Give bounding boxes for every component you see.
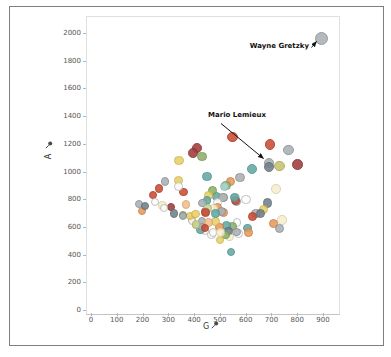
y-tick-mark xyxy=(83,33,86,34)
x-tick-label: 400 xyxy=(187,316,200,324)
y-tick-label: 400 xyxy=(51,251,81,259)
data-point[interactable] xyxy=(160,204,168,212)
x-axis-label-text: G xyxy=(203,322,209,331)
y-tick-label: 1000 xyxy=(51,168,81,176)
y-tick-label: 1400 xyxy=(51,112,81,120)
data-point[interactable] xyxy=(227,132,237,142)
data-point[interactable] xyxy=(274,161,284,171)
data-point[interactable] xyxy=(292,159,302,169)
x-tick-label: 500 xyxy=(213,316,226,324)
data-point[interactable] xyxy=(216,228,224,236)
y-tick-label: 1800 xyxy=(51,57,81,65)
y-tick-mark xyxy=(83,199,86,200)
data-point[interactable] xyxy=(271,184,281,194)
data-point[interactable] xyxy=(235,173,245,183)
data-point[interactable] xyxy=(283,145,294,156)
data-point[interactable] xyxy=(315,32,328,45)
x-tick-label: 600 xyxy=(239,316,252,324)
data-point[interactable] xyxy=(264,162,274,172)
y-tick-label: 1600 xyxy=(51,84,81,92)
data-point[interactable] xyxy=(211,209,220,218)
data-point[interactable] xyxy=(232,228,241,237)
scatter-plot-window: A G 010020030040050060070080090002004006… xyxy=(0,0,391,357)
annotation-label: Wayne Gretzky xyxy=(249,42,309,50)
data-point[interactable] xyxy=(248,212,257,221)
data-point[interactable] xyxy=(174,182,183,191)
data-point[interactable] xyxy=(275,224,284,233)
y-tick-mark xyxy=(83,255,86,256)
y-tick-label: 0 xyxy=(51,306,81,314)
y-tick-mark xyxy=(83,144,86,145)
annotation-label: Mario Lemieux xyxy=(208,111,266,119)
x-tick-label: 900 xyxy=(316,316,329,324)
x-tick-label: 700 xyxy=(265,316,278,324)
y-tick-mark xyxy=(83,61,86,62)
x-tick-label: 0 xyxy=(89,316,93,324)
x-tick-label: 800 xyxy=(291,316,304,324)
y-tick-mark xyxy=(83,116,86,117)
data-point[interactable] xyxy=(192,220,200,228)
data-point[interactable] xyxy=(170,209,178,217)
data-point[interactable] xyxy=(151,198,159,206)
data-point[interactable] xyxy=(256,209,265,218)
y-tick-label: 600 xyxy=(51,223,81,231)
x-tick-label: 200 xyxy=(136,316,149,324)
data-point[interactable] xyxy=(227,248,235,256)
data-point[interactable] xyxy=(265,139,276,150)
x-tick-label: 100 xyxy=(110,316,123,324)
y-tick-label: 200 xyxy=(51,278,81,286)
data-point[interactable] xyxy=(201,224,209,232)
x-tick-label: 300 xyxy=(162,316,175,324)
data-point[interactable] xyxy=(244,228,253,237)
y-axis-label-text: A xyxy=(44,154,53,159)
data-point[interactable] xyxy=(201,208,210,217)
y-tick-label: 1200 xyxy=(51,140,81,148)
y-tick-label: 2000 xyxy=(51,29,81,37)
y-tick-mark xyxy=(83,88,86,89)
data-point[interactable] xyxy=(216,236,224,244)
y-tick-label: 800 xyxy=(51,195,81,203)
data-point[interactable] xyxy=(141,202,149,210)
data-point[interactable] xyxy=(155,184,164,193)
y-tick-mark xyxy=(83,172,86,173)
data-point[interactable] xyxy=(174,156,183,165)
data-point[interactable] xyxy=(230,193,239,202)
data-point[interactable] xyxy=(211,217,220,226)
y-tick-mark xyxy=(83,282,86,283)
y-tick-mark xyxy=(83,227,86,228)
data-point[interactable] xyxy=(241,195,250,204)
data-point[interactable] xyxy=(202,172,211,181)
data-point[interactable] xyxy=(197,152,207,162)
y-tick-mark xyxy=(83,310,86,311)
